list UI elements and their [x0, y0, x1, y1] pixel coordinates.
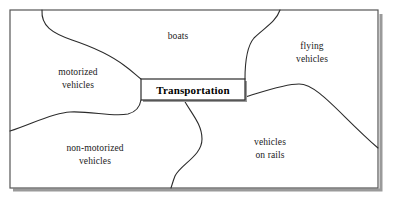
center-box-label: Transportation	[156, 84, 229, 96]
transportation-concept-map: motorized vehicles boats flying vehicles…	[0, 0, 393, 203]
diagram-canvas	[0, 0, 393, 203]
